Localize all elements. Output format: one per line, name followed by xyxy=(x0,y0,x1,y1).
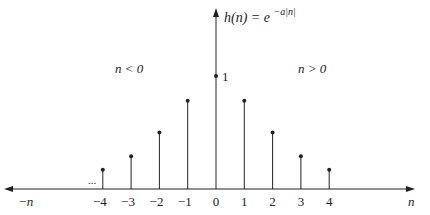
tick-label: −3 xyxy=(121,194,135,209)
y-marker-label: 1 xyxy=(222,69,229,84)
tick-labels-group: −4−3−2−101234 xyxy=(93,194,333,209)
region-left-label: n < 0 xyxy=(115,61,144,76)
stem-dot xyxy=(271,131,275,135)
stem-plot: −4−3−2−101234 h(n) = e −a|n| 1 n < 0 n >… xyxy=(0,0,430,215)
tick-label: 4 xyxy=(326,194,333,209)
y-axis-up-arrow-icon xyxy=(213,8,219,17)
tick-label: 2 xyxy=(269,194,276,209)
region-right-label: n > 0 xyxy=(298,61,327,76)
stem-dot xyxy=(299,154,303,158)
tick-label: −1 xyxy=(178,194,192,209)
tick-label: 1 xyxy=(241,194,248,209)
x-axis-right-arrow-icon xyxy=(406,186,415,192)
tick-label: 3 xyxy=(298,194,305,209)
tick-label: 0 xyxy=(213,194,220,209)
stem-dot xyxy=(129,154,133,158)
tick-label: −4 xyxy=(93,194,107,209)
ellipsis: ... xyxy=(88,174,97,186)
stem-dot xyxy=(157,131,161,135)
stem-dot xyxy=(327,168,331,172)
x-axis-label: n xyxy=(408,194,415,209)
stem-dot xyxy=(214,74,218,78)
stem-dot xyxy=(101,168,105,172)
function-label: h(n) = e −a|n| xyxy=(224,6,296,26)
x-axis-left-arrow-icon xyxy=(4,186,13,192)
x-axis-negative-label: −n xyxy=(18,194,33,209)
stem-dot xyxy=(186,99,190,103)
stem-dot xyxy=(242,99,246,103)
tick-label: −2 xyxy=(150,194,164,209)
